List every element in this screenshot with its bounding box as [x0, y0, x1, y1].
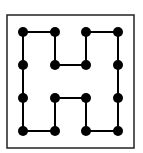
grid-dot — [113, 60, 123, 70]
grid-dot — [18, 126, 28, 136]
grid-path-diagram — [0, 0, 143, 153]
grid-dot — [113, 126, 123, 136]
grid-dot — [50, 27, 60, 37]
grid-dot — [50, 60, 60, 70]
grid-dot — [81, 60, 91, 70]
grid-dot — [18, 93, 28, 103]
grid-dot — [50, 126, 60, 136]
grid-dot — [81, 93, 91, 103]
grid-dots — [18, 27, 123, 136]
grid-dot — [50, 93, 60, 103]
grid-dot — [18, 60, 28, 70]
grid-dot — [113, 27, 123, 37]
grid-dot — [113, 93, 123, 103]
path-edges — [23, 32, 118, 131]
grid-dot — [81, 27, 91, 37]
grid-dot — [18, 27, 28, 37]
grid-dot — [81, 126, 91, 136]
